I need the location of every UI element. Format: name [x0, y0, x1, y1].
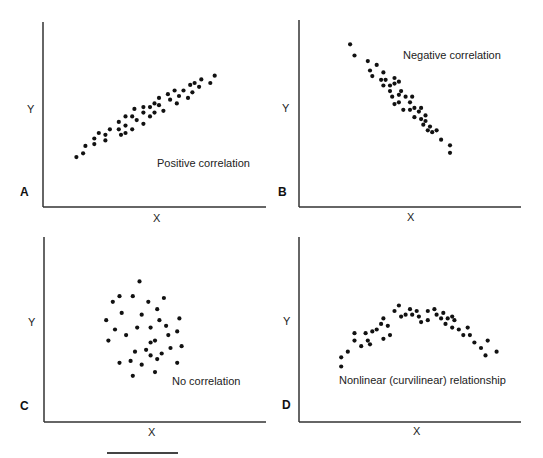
data-point [410, 95, 414, 99]
panel-annotation: No correlation [172, 375, 240, 387]
data-point [417, 110, 421, 114]
scatter-points [339, 303, 499, 368]
data-point [399, 89, 403, 93]
data-point [381, 70, 385, 74]
data-point [168, 98, 172, 102]
data-point [129, 359, 133, 363]
data-point [479, 346, 483, 350]
data-point [123, 124, 127, 128]
data-point [175, 329, 179, 333]
data-point [152, 111, 156, 115]
panel-d-plot [299, 237, 521, 422]
data-point [140, 313, 144, 317]
data-point [157, 318, 161, 322]
data-point [119, 133, 123, 137]
data-point [339, 364, 343, 368]
y-axis-label: Y [283, 315, 290, 327]
data-point [368, 342, 372, 346]
data-point [92, 136, 96, 140]
data-point [155, 357, 159, 361]
data-point [120, 311, 124, 315]
data-point [193, 81, 197, 85]
panel-a [43, 22, 266, 207]
data-point [432, 307, 436, 311]
data-point [457, 327, 461, 331]
data-point [448, 151, 452, 155]
data-point [135, 118, 139, 122]
data-point [439, 138, 443, 142]
x-axis-label: X [153, 212, 160, 224]
data-point [131, 294, 135, 298]
data-point [339, 355, 343, 359]
data-point [486, 339, 490, 343]
data-point [153, 370, 157, 374]
data-point [397, 80, 401, 84]
data-point [123, 131, 127, 135]
data-point [446, 316, 450, 320]
panel-letter: C [20, 399, 29, 413]
data-point [483, 353, 487, 357]
data-point [149, 340, 153, 344]
data-point [397, 303, 401, 307]
panel-annotation: Positive correlation [157, 157, 250, 169]
data-point [388, 89, 392, 93]
data-point [153, 339, 157, 343]
data-point [392, 102, 396, 106]
panel-letter: B [278, 185, 287, 199]
data-point [408, 307, 412, 311]
data-point [162, 296, 166, 300]
data-point [152, 101, 156, 105]
data-point [426, 128, 430, 132]
data-point [123, 114, 127, 118]
data-point [352, 339, 356, 343]
data-point [135, 326, 139, 330]
data-point [213, 74, 217, 78]
data-point [397, 93, 401, 97]
scatter-points [104, 279, 184, 378]
data-point [381, 316, 385, 320]
data-point [419, 106, 423, 110]
data-point [173, 88, 177, 92]
data-point [352, 331, 356, 335]
data-point [81, 151, 85, 155]
data-point [148, 105, 152, 109]
data-point [419, 320, 423, 324]
data-point [103, 138, 107, 142]
data-point [375, 327, 379, 331]
data-point [379, 322, 383, 326]
data-point [461, 333, 465, 337]
data-point [131, 374, 135, 378]
data-point [390, 95, 394, 99]
data-point [426, 318, 430, 322]
data-point [140, 363, 144, 367]
data-point [133, 350, 137, 354]
data-point [435, 128, 439, 132]
data-point [132, 107, 136, 111]
data-point [381, 83, 385, 87]
data-point [177, 94, 181, 98]
data-point [157, 96, 161, 100]
panel-a-plot [43, 22, 266, 207]
data-point [108, 127, 112, 131]
data-point [103, 133, 107, 137]
data-point [141, 122, 145, 126]
data-point [166, 92, 170, 96]
data-point [141, 111, 145, 115]
data-point [208, 81, 212, 85]
data-point [401, 108, 405, 112]
data-point [180, 344, 184, 348]
panel-c [44, 237, 266, 422]
data-point [141, 105, 145, 109]
data-point [392, 76, 396, 80]
y-axis-label: Y [28, 316, 35, 328]
data-point [439, 316, 443, 320]
data-point [452, 318, 456, 322]
data-point [168, 346, 172, 350]
data-point [146, 300, 150, 304]
data-point [148, 114, 152, 118]
data-point [111, 300, 115, 304]
data-point [348, 42, 352, 46]
data-point [466, 326, 470, 330]
data-point [443, 322, 447, 326]
data-point [472, 340, 476, 344]
